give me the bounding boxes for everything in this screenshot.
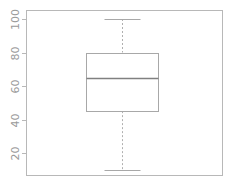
boxplot-chart: 20406080100 bbox=[0, 0, 228, 186]
y-axis: 20406080100 bbox=[9, 9, 27, 161]
y-tick-label: 20 bbox=[9, 147, 22, 161]
box-group bbox=[87, 19, 159, 171]
y-tick-label: 100 bbox=[9, 9, 22, 30]
iqr-box bbox=[87, 54, 159, 112]
y-tick-label: 80 bbox=[9, 47, 22, 61]
y-tick-label: 40 bbox=[9, 114, 22, 128]
y-tick-label: 60 bbox=[9, 80, 22, 94]
